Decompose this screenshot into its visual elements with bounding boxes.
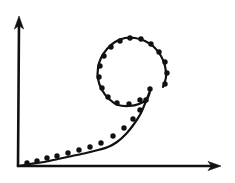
axes-group [14, 16, 221, 171]
data-point-marker [110, 133, 115, 138]
data-point-marker [130, 116, 135, 121]
data-point-marker [126, 101, 131, 106]
data-point-marker [101, 53, 106, 58]
data-point-marker [97, 63, 102, 68]
data-point-marker [44, 155, 49, 160]
data-point-marker [76, 147, 81, 152]
data-point-marker [105, 94, 110, 99]
data-point-marker [108, 44, 113, 49]
data-point-marker [137, 97, 142, 102]
data-point-marker [121, 125, 126, 130]
chart-canvas [0, 0, 235, 183]
data-point-marker [143, 97, 148, 102]
data-point-marker [114, 100, 119, 105]
data-point-marker [164, 70, 169, 75]
plot-area [19, 35, 170, 166]
data-point-marker [127, 35, 132, 40]
data-point-marker [96, 74, 101, 79]
data-point-marker [137, 107, 142, 112]
data-point-marker [54, 153, 59, 158]
data-point-group [24, 35, 169, 165]
data-point-marker [65, 150, 70, 155]
data-point-marker [34, 158, 39, 163]
data-point-marker [138, 36, 143, 41]
data-point-marker [24, 160, 29, 165]
y-axis-line [18, 23, 19, 166]
data-point-marker [162, 59, 167, 64]
data-point-marker [147, 86, 152, 91]
data-point-marker [162, 81, 167, 86]
data-point-marker [156, 49, 161, 54]
data-point-marker [117, 38, 122, 43]
data-point-marker [99, 85, 104, 90]
data-point-marker [98, 140, 103, 145]
data-point-marker [148, 41, 153, 46]
sketch-chart-figure [0, 0, 235, 183]
data-point-marker [87, 144, 92, 149]
